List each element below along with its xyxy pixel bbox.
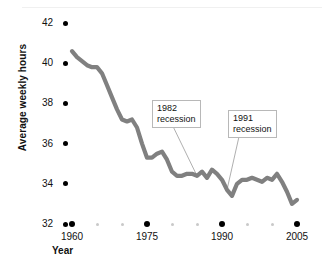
annotation-box-1991: 1991 recession	[228, 110, 277, 138]
annotation-box-1982: 1982 recession	[152, 100, 201, 128]
annotation-1982-line2: recession	[157, 114, 196, 125]
annotation-leader-1982	[174, 128, 197, 176]
annotation-1982-line1: 1982	[157, 103, 196, 114]
annotation-1991-line1: 1991	[233, 113, 272, 124]
chart-container: Average weekly hours Year 323436384042 1…	[0, 0, 325, 267]
annotation-1991-line2: recession	[233, 124, 272, 135]
